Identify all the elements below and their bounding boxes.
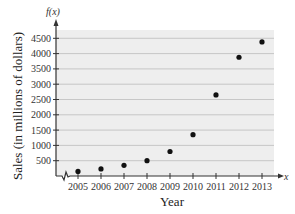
x-tick-label: 2005 xyxy=(68,181,88,192)
x-tick-label: 2008 xyxy=(137,181,157,192)
data-point xyxy=(144,158,149,163)
data-point xyxy=(98,166,103,171)
plot-area xyxy=(56,30,274,176)
y-tick-label: 4000 xyxy=(31,48,51,59)
sales-chart: 50010001500200025003000350040004500 2005… xyxy=(0,0,295,214)
y-tick-label: 3500 xyxy=(31,63,51,74)
x-tick-label: 2007 xyxy=(114,181,134,192)
y-tick-label: 500 xyxy=(36,155,51,166)
data-point xyxy=(190,132,195,137)
x-tick-label: 2011 xyxy=(206,181,226,192)
y-ticks: 50010001500200025003000350040004500 xyxy=(31,33,59,166)
data-point xyxy=(213,92,218,97)
y-tick-label: 2000 xyxy=(31,109,51,120)
y-tick-label: 1500 xyxy=(31,125,51,136)
y-tick-label: 3000 xyxy=(31,79,51,90)
y-axis-title: Sales (in millions of dollars) xyxy=(10,32,25,180)
data-point xyxy=(75,169,80,174)
data-point xyxy=(259,39,264,44)
x-tick-label: 2012 xyxy=(229,181,249,192)
x-tick-label: 2009 xyxy=(160,181,180,192)
data-point xyxy=(121,163,126,168)
data-point xyxy=(236,55,241,60)
x-tick-label: 2013 xyxy=(252,181,272,192)
y-tick-label: 2500 xyxy=(31,94,51,105)
data-point xyxy=(167,149,172,154)
x-axis-name: x xyxy=(283,171,289,182)
y-tick-label: 4500 xyxy=(31,33,51,44)
y-axis-arrow-icon xyxy=(54,19,59,26)
x-axis-title: Year xyxy=(160,194,185,209)
plot-background xyxy=(56,30,274,176)
x-tick-label: 2006 xyxy=(91,181,111,192)
y-tick-label: 1000 xyxy=(31,140,51,151)
x-tick-label: 2010 xyxy=(183,181,203,192)
y-axis-name: f(x) xyxy=(46,6,61,18)
